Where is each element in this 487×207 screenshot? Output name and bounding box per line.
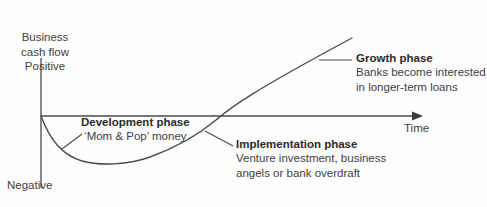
- y-axis-title: Business cash flow Positive: [6, 30, 84, 74]
- y-axis-negative-label: Negative: [7, 178, 52, 192]
- development-phase-annotation: Development phase ‘Mom & Pop’ money: [81, 115, 190, 144]
- y-axis-title-line-1: Business: [6, 30, 84, 45]
- y-axis-title-line-2: cash flow: [6, 45, 84, 60]
- y-axis-positive-label: Positive: [6, 59, 84, 74]
- growth-phase-desc-line-1: Banks become interested: [356, 65, 486, 80]
- development-phase-title: Development phase: [81, 115, 190, 129]
- x-axis-time-label: Time: [404, 121, 429, 135]
- growth-phase-desc-line-2: in longer-term loans: [356, 80, 486, 95]
- growth-phase-title: Growth phase: [356, 51, 486, 65]
- implementation-phase-desc-line-1: Venture investment, business: [236, 151, 386, 166]
- growth-phase-annotation: Growth phase Banks become interested in …: [356, 51, 486, 94]
- implementation-leader-line: [205, 131, 233, 146]
- x-axis-arrowhead: [412, 112, 423, 121]
- implementation-phase-title: Implementation phase: [236, 137, 386, 151]
- implementation-phase-desc-line-2: angels or bank overdraft: [236, 166, 386, 181]
- development-phase-desc-line-1: ‘Mom & Pop’ money: [81, 129, 190, 144]
- implementation-phase-annotation: Implementation phase Venture investment,…: [236, 137, 386, 180]
- development-leader-line: [62, 134, 82, 149]
- cash-flow-diagram: Business cash flow Positive Negative Tim…: [0, 0, 487, 207]
